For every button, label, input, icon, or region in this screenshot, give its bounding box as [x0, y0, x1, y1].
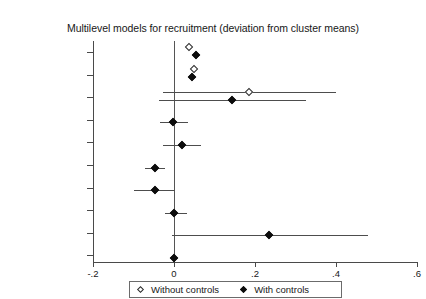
- filled-diamond-marker: [151, 186, 159, 194]
- x-axis-tick-label: -.2: [87, 268, 98, 279]
- filled-diamond-marker: [151, 163, 159, 171]
- filled-diamond-marker: [170, 254, 178, 262]
- x-axis-tick-label: .4: [332, 268, 340, 279]
- y-axis-tick: [87, 233, 93, 234]
- y-axis-line: [93, 41, 94, 263]
- y-axis-tick: [87, 188, 93, 189]
- zero-reference-line: [174, 41, 175, 263]
- chart-title: Multilevel models for recruitment (devia…: [0, 22, 426, 34]
- filled-diamond-marker: [265, 231, 273, 239]
- y-axis-tick: [87, 255, 93, 256]
- filled-diamond-marker: [188, 73, 196, 81]
- y-axis-tick: [87, 210, 93, 211]
- filled-diamond-icon: [240, 286, 247, 293]
- legend-label-without-controls: Without controls: [151, 284, 219, 295]
- hollow-diamond-marker: [184, 42, 192, 50]
- x-axis-tick: [93, 262, 94, 267]
- legend-entry-without-controls: Without controls: [138, 284, 219, 295]
- filled-diamond-marker: [177, 141, 185, 149]
- x-axis-tick-label: .2: [251, 268, 259, 279]
- x-axis-tick: [174, 262, 175, 267]
- chart-figure: Multilevel models for recruitment (devia…: [0, 0, 426, 299]
- hollow-diamond-icon: [137, 286, 144, 293]
- hollow-diamond-marker: [245, 87, 253, 95]
- filled-diamond-marker: [192, 50, 200, 58]
- x-axis-tick: [255, 262, 256, 267]
- legend-entry-with-controls: With controls: [241, 284, 309, 295]
- y-axis-tick: [87, 165, 93, 166]
- y-axis-tick: [87, 97, 93, 98]
- y-axis-tick: [87, 52, 93, 53]
- filled-diamond-marker: [170, 208, 178, 216]
- y-axis-tick: [87, 75, 93, 76]
- x-axis-tick-label: 0: [171, 268, 176, 279]
- x-axis-tick-label: .6: [413, 268, 421, 279]
- filled-diamond-marker: [169, 118, 177, 126]
- chart-legend: Without controls With controls: [129, 281, 342, 298]
- x-axis-tick: [417, 262, 418, 267]
- y-axis-tick: [87, 142, 93, 143]
- filled-diamond-marker: [228, 95, 236, 103]
- legend-label-with-controls: With controls: [254, 284, 309, 295]
- x-axis-tick: [336, 262, 337, 267]
- y-axis-tick: [87, 120, 93, 121]
